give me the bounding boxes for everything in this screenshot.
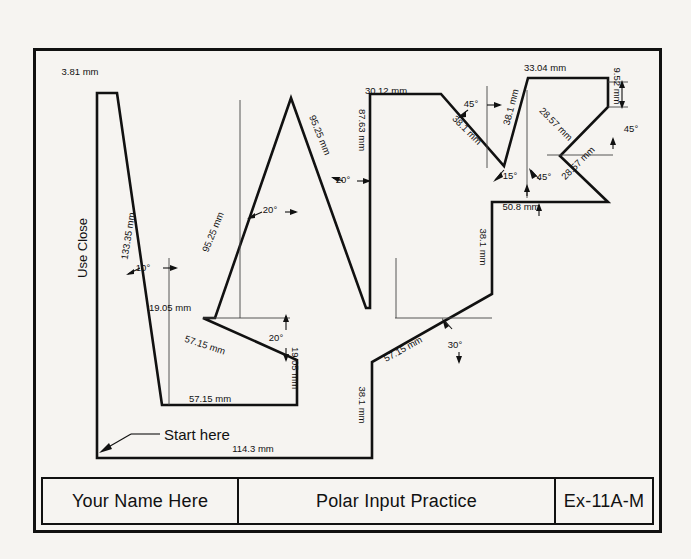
dimension-label-d-952: 9.52 mm: [612, 68, 622, 105]
dimension-label-a-15: 15°: [503, 171, 517, 181]
dimension-label-a-45-b: 45°: [537, 172, 551, 182]
dimension-label-d-1905-a: 19.05 mm: [149, 303, 191, 313]
title-block-code[interactable]: Ex-11A-M: [554, 477, 654, 525]
dimension-label-a-30: 30°: [448, 340, 462, 350]
note-start-here: Start here: [164, 427, 230, 442]
dimension-label-d-8763: 87.63 mm: [357, 109, 367, 151]
technical-drawing-geometry: [0, 0, 691, 559]
dimension-label-d-5715-b: 57.15 mm: [189, 394, 231, 404]
dimension-label-d-3304: 33.04 mm: [524, 63, 566, 73]
dimension-label-a-45-a: 45°: [464, 99, 478, 109]
dimension-label-a-20-c: 20°: [336, 175, 350, 185]
dimension-label-d-508: 50.8 mm: [503, 202, 540, 212]
dimension-label-d-3012: 30.12 mm: [365, 86, 407, 96]
title-block-title[interactable]: Polar Input Practice: [237, 477, 556, 525]
dimension-label-d-381: 3.81 mm: [62, 67, 99, 77]
dimension-label-a-10: 10°: [136, 263, 150, 273]
dimension-label-a-20-b: 20°: [263, 205, 277, 215]
dimension-label-d-381-d: 38.1 mm: [357, 387, 367, 424]
drawing-sheet: 3.81 mm133.35 mm10°19.05 mm57.15 mm20°19…: [0, 0, 691, 559]
title-block: Your Name Here Polar Input Practice Ex-1…: [41, 477, 654, 525]
note-use-close: Use Close: [76, 218, 89, 278]
dimension-label-a-45-c: 45°: [624, 124, 638, 134]
dimension-label-d-1905-b: 19.05 mm: [290, 347, 300, 389]
title-block-name[interactable]: Your Name Here: [41, 477, 239, 525]
dimension-label-d-1143: 114.3 mm: [232, 444, 274, 454]
dimension-label-a-20-a: 20°: [269, 333, 283, 343]
dimension-label-d-381-c: 38.1 mm: [478, 229, 488, 266]
